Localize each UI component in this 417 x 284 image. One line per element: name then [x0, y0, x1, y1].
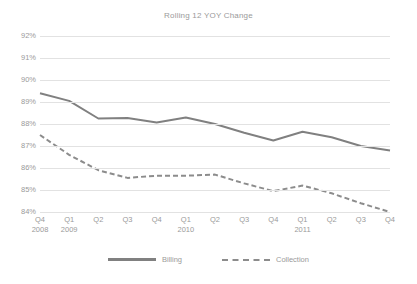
- chart-title: Rolling 12 YOY Change: [0, 11, 417, 20]
- gridline: [40, 124, 390, 125]
- legend-label: Billing: [162, 255, 182, 264]
- legend-swatch-solid-icon: [108, 258, 156, 261]
- x-tick-year: 2010: [166, 225, 206, 235]
- x-axis-tick-label: Q4: [370, 215, 410, 225]
- gridline: [40, 212, 390, 213]
- legend-label: Collection: [276, 255, 309, 264]
- gridline: [40, 102, 390, 103]
- y-axis-tick-label: 87%: [2, 141, 36, 150]
- legend-swatch-dashed-icon: [222, 259, 270, 261]
- y-axis-tick-label: 90%: [2, 75, 36, 84]
- x-tick-year: 2009: [49, 225, 89, 235]
- chart-container: Rolling 12 YOY Change 84%85%86%87%88%89%…: [0, 0, 417, 284]
- x-tick-quarter: Q4: [370, 215, 410, 225]
- x-tick-year: 2011: [283, 225, 323, 235]
- y-axis-tick-label: 86%: [2, 163, 36, 172]
- gridline: [40, 58, 390, 59]
- y-axis-tick-label: 92%: [2, 31, 36, 40]
- y-axis-tick-label: 91%: [2, 53, 36, 62]
- gridline: [40, 80, 390, 81]
- gridline: [40, 36, 390, 37]
- y-axis-tick-label: 88%: [2, 119, 36, 128]
- legend-item-billing[interactable]: Billing: [108, 255, 182, 264]
- gridline: [40, 168, 390, 169]
- x-axis: Q42008Q12009Q2Q3Q4Q12010Q2Q3Q4Q12011Q2Q3…: [40, 215, 390, 245]
- legend-item-collection[interactable]: Collection: [222, 255, 309, 264]
- gridline: [40, 190, 390, 191]
- y-axis: 84%85%86%87%88%89%90%91%92%: [0, 36, 36, 212]
- gridline: [40, 146, 390, 147]
- plot-area: [40, 36, 390, 212]
- y-axis-tick-label: 89%: [2, 97, 36, 106]
- chart-legend: BillingCollection: [0, 255, 417, 264]
- y-axis-tick-label: 85%: [2, 185, 36, 194]
